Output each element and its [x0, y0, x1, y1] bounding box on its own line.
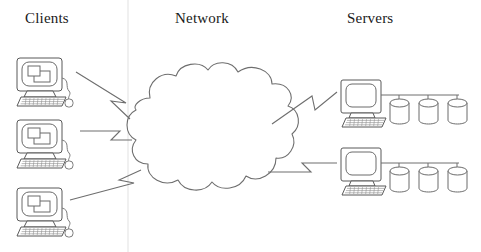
arrow-client-3-to-cloud	[70, 170, 141, 200]
server-2-disk-1	[390, 167, 409, 192]
arrow-client-2-to-cloud	[80, 131, 132, 140]
arrow-cloud-to-server-2	[268, 163, 337, 172]
server-1-disk-1	[390, 99, 409, 124]
server-2-disk-3	[448, 167, 467, 192]
network-cloud	[127, 63, 298, 190]
server-1-disk-3	[448, 99, 467, 124]
server-2-disk-2	[419, 167, 438, 192]
server-group-1[interactable]	[341, 80, 467, 127]
diagram-canvas	[0, 0, 481, 252]
network-diagram: Clients Network Servers	[0, 0, 481, 252]
client-workstation-2[interactable]	[17, 120, 73, 169]
client-workstation-3[interactable]	[17, 188, 73, 237]
server-1-disk-2	[419, 99, 438, 124]
arrow-client-1-to-cloud	[76, 72, 130, 119]
client-workstation-1[interactable]	[17, 58, 73, 107]
server-group-2[interactable]	[341, 148, 467, 195]
